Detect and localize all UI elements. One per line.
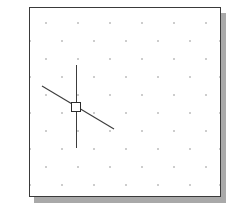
grid-dot xyxy=(61,148,62,149)
grid-dot xyxy=(219,184,220,185)
grid-dot xyxy=(30,148,31,149)
grid-dot xyxy=(219,76,220,77)
grid-dot xyxy=(205,22,206,23)
grid-dot xyxy=(45,58,46,59)
grid-dot xyxy=(45,94,46,95)
grid-dot xyxy=(141,166,142,167)
grid-dot xyxy=(205,130,206,131)
canvas-area[interactable] xyxy=(30,8,220,196)
grid-dot xyxy=(77,58,78,59)
grid-dot xyxy=(93,148,94,149)
grid-dot xyxy=(157,40,158,41)
grid-dot xyxy=(157,184,158,185)
snap-grid-layer xyxy=(30,22,220,185)
grid-dot xyxy=(45,166,46,167)
grid-dot xyxy=(125,76,126,77)
grid-dot xyxy=(93,184,94,185)
grid-dot xyxy=(173,22,174,23)
grid-dot xyxy=(189,148,190,149)
grid-dot xyxy=(205,166,206,167)
grid-dot xyxy=(93,40,94,41)
grid-dot xyxy=(109,22,110,23)
grid-dot xyxy=(189,40,190,41)
grid-dot xyxy=(141,58,142,59)
grid-dot xyxy=(189,112,190,113)
grid-dot xyxy=(141,130,142,131)
geometry-layer[interactable] xyxy=(42,65,114,148)
drawing-sheet-frame[interactable] xyxy=(29,7,221,197)
grid-dot xyxy=(125,148,126,149)
grid-dot xyxy=(109,166,110,167)
grid-dot xyxy=(157,76,158,77)
grid-dot xyxy=(109,58,110,59)
grid-dot xyxy=(109,130,110,131)
grid-dot xyxy=(77,166,78,167)
grid-dot xyxy=(173,166,174,167)
drawing-application-window xyxy=(0,0,243,213)
grid-dot xyxy=(30,76,31,77)
grid-dot xyxy=(61,76,62,77)
grid-dot xyxy=(173,58,174,59)
grid-dot xyxy=(61,112,62,113)
grid-dot xyxy=(30,40,31,41)
selection-grip-handle[interactable] xyxy=(72,103,81,112)
grid-dot xyxy=(141,94,142,95)
grid-dot xyxy=(45,130,46,131)
grid-dot xyxy=(125,40,126,41)
grid-dot xyxy=(61,40,62,41)
grid-dot xyxy=(205,58,206,59)
grid-dot xyxy=(205,94,206,95)
grid-dot xyxy=(219,148,220,149)
grid-dot xyxy=(125,184,126,185)
canvas-svg[interactable] xyxy=(30,8,220,196)
grid-dot xyxy=(93,76,94,77)
grid-dot xyxy=(141,22,142,23)
grid-dot xyxy=(173,94,174,95)
grid-dot xyxy=(189,184,190,185)
grid-dot xyxy=(77,130,78,131)
grid-dot xyxy=(77,94,78,95)
grid-dot xyxy=(109,94,110,95)
grid-dot xyxy=(173,130,174,131)
grid-dot xyxy=(61,184,62,185)
grid-dot xyxy=(30,112,31,113)
grid-dot xyxy=(93,112,94,113)
grid-dot xyxy=(189,76,190,77)
grid-dot xyxy=(125,112,126,113)
grid-dot xyxy=(45,22,46,23)
grid-dot xyxy=(30,184,31,185)
grid-dot xyxy=(157,148,158,149)
grid-dot xyxy=(157,112,158,113)
grid-dot xyxy=(77,22,78,23)
grid-dot xyxy=(219,112,220,113)
grid-dot xyxy=(219,40,220,41)
